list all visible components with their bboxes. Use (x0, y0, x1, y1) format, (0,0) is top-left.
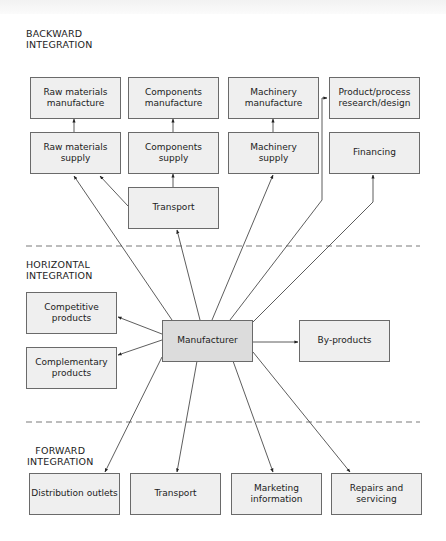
box-repairs-and-servicing[interactable]: Repairs and servicing (331, 473, 422, 515)
box-machinery-supply[interactable]: Machinery supply (228, 132, 319, 174)
box-components-manufacture[interactable]: Components manufacture (128, 77, 219, 119)
box-competitive-products[interactable]: Competitive products (26, 292, 117, 334)
box-components-supply[interactable]: Components supply (128, 132, 219, 174)
box-machinery-manufacture[interactable]: Machinery manufacture (228, 77, 319, 119)
box-complementary-products[interactable]: Complementary products (26, 347, 117, 389)
box-transport-forward[interactable]: Transport (130, 473, 221, 515)
box-marketing-information[interactable]: Marketing information (231, 473, 322, 515)
box-by-products[interactable]: By-products (299, 320, 390, 362)
box-raw-materials-manufacture[interactable]: Raw materials manufacture (30, 77, 121, 119)
box-raw-materials-supply[interactable]: Raw materials supply (30, 132, 121, 174)
box-distribution-outlets[interactable]: Distribution outlets (29, 473, 120, 515)
box-product-process-research-design[interactable]: Product/process research/design (329, 77, 420, 119)
box-manufacturer[interactable]: Manufacturer (162, 320, 253, 362)
box-transport-backward[interactable]: Transport (128, 187, 219, 229)
box-financing[interactable]: Financing (329, 132, 420, 174)
